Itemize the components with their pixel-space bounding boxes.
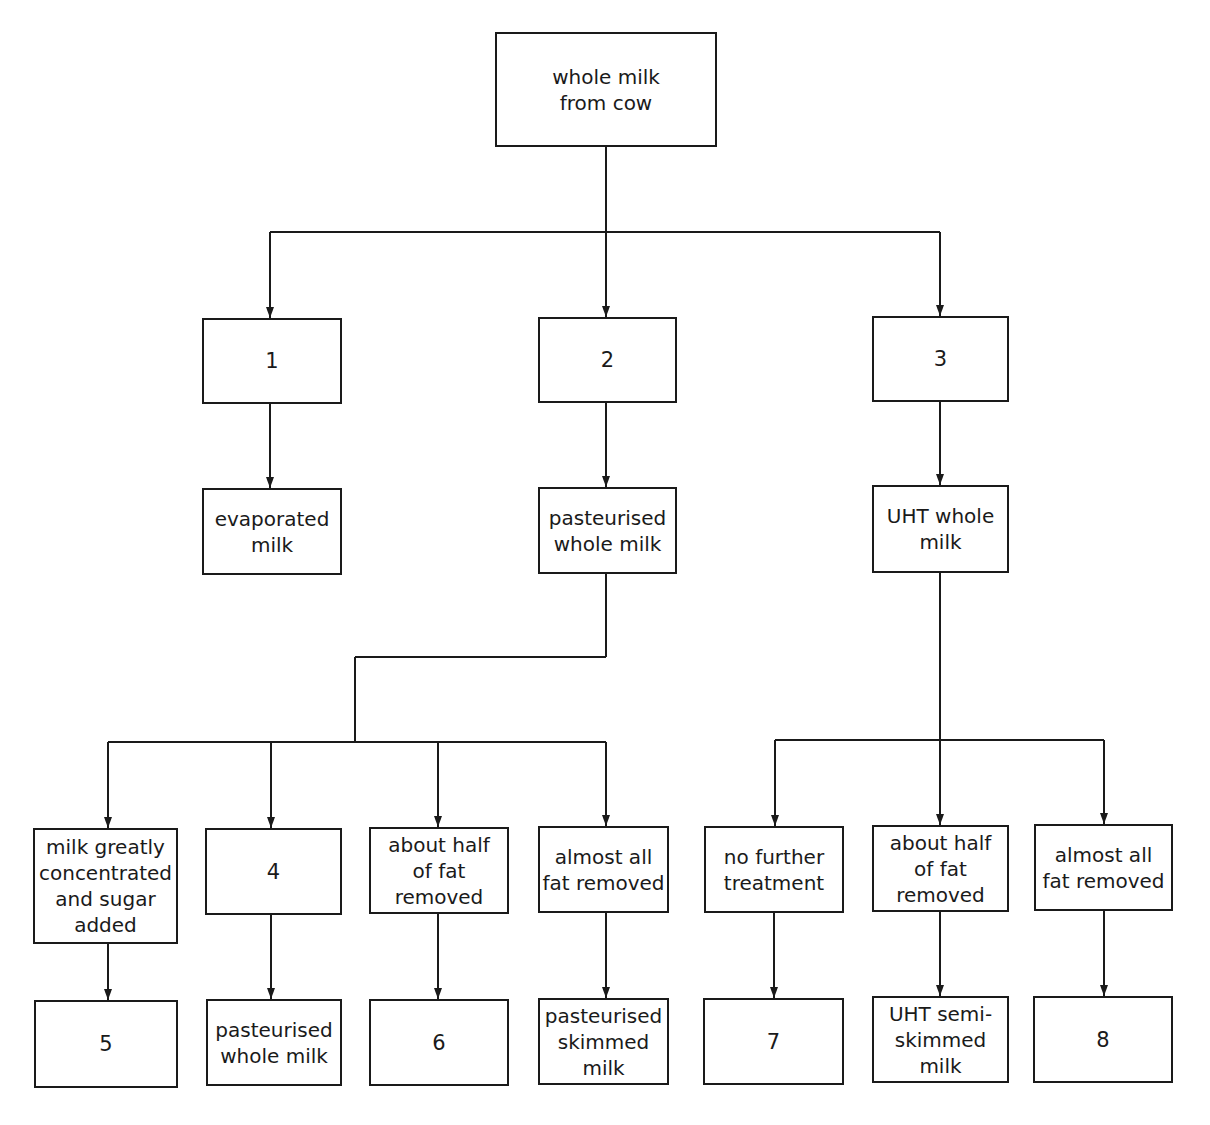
arrowhead-icon — [936, 814, 944, 825]
node-half1: about half of fat removed — [369, 827, 509, 914]
node-n6: 6 — [369, 999, 509, 1086]
arrowhead-icon — [267, 817, 275, 828]
node-evap: evaporated milk — [202, 488, 342, 575]
node-all2: almost all fat removed — [1034, 824, 1173, 911]
arrowhead-icon — [104, 989, 112, 1000]
arrowhead-icon — [602, 306, 610, 317]
arrowhead-icon — [434, 988, 442, 999]
arrowhead-icon — [266, 477, 274, 488]
node-n2: 2 — [538, 317, 677, 403]
node-nofurther: no further treatment — [704, 826, 844, 913]
arrowhead-icon — [936, 985, 944, 996]
node-half2: about half of fat removed — [872, 825, 1009, 912]
node-psm: pasteurised skimmed milk — [538, 998, 669, 1085]
node-n1: 1 — [202, 318, 342, 404]
node-n5: 5 — [34, 1000, 178, 1088]
arrowhead-icon — [104, 817, 112, 828]
arrowhead-icon — [602, 815, 610, 826]
node-n8: 8 — [1033, 996, 1173, 1083]
milk-processing-flowchart: whole milk from cow 123evaporated milkpa… — [0, 0, 1210, 1125]
arrowhead-icon — [770, 987, 778, 998]
node-whole-milk-from-cow: whole milk from cow — [495, 32, 717, 147]
node-n7: 7 — [703, 998, 844, 1085]
arrowhead-icon — [267, 988, 275, 999]
node-cond: milk greatly concentrated and sugar adde… — [33, 828, 178, 944]
arrowhead-icon — [936, 305, 944, 316]
arrowhead-icon — [771, 815, 779, 826]
arrowhead-icon — [936, 474, 944, 485]
node-uht: UHT whole milk — [872, 485, 1009, 573]
arrowhead-icon — [266, 307, 274, 318]
node-uhtsemi: UHT semi- skimmed milk — [872, 996, 1009, 1083]
node-n4: 4 — [205, 828, 342, 915]
node-n3: 3 — [872, 316, 1009, 402]
arrowhead-icon — [1100, 985, 1108, 996]
arrowhead-icon — [434, 816, 442, 827]
node-past: pasteurised whole milk — [538, 487, 677, 574]
arrowhead-icon — [1100, 813, 1108, 824]
arrowhead-icon — [602, 987, 610, 998]
node-all1: almost all fat removed — [538, 826, 669, 913]
node-pwm: pasteurised whole milk — [206, 999, 342, 1086]
arrowhead-icon — [602, 476, 610, 487]
